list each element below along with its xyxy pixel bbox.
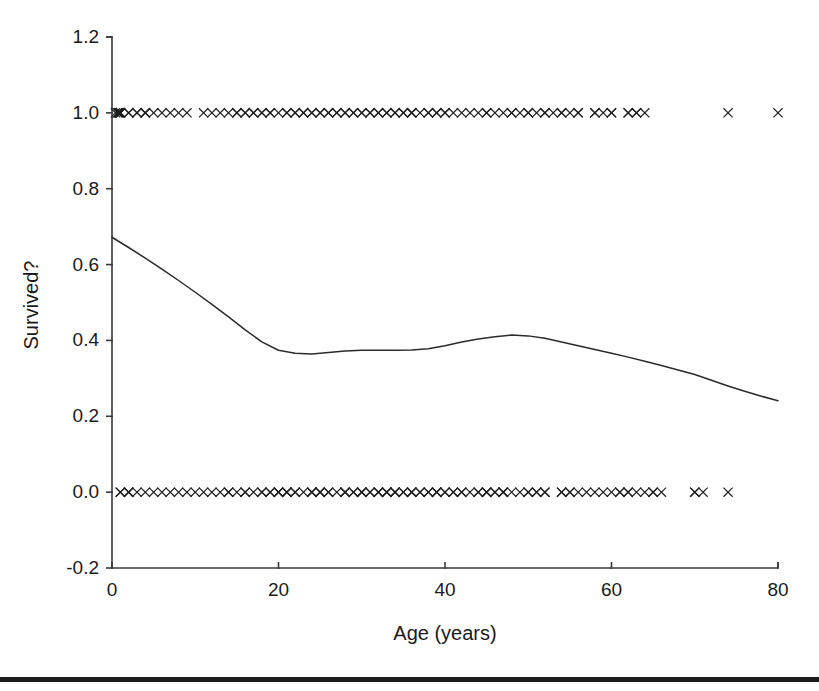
data-point-marker — [524, 108, 533, 117]
data-point-marker — [282, 108, 291, 117]
data-point-marker — [465, 488, 474, 497]
data-point-marker — [624, 488, 633, 497]
data-point-marker — [216, 108, 225, 117]
data-point-marker — [507, 488, 516, 497]
data-point-marker — [549, 108, 558, 117]
data-point-marker — [374, 488, 383, 497]
data-point-marker — [565, 108, 574, 117]
figure-canvas: -0.20.00.20.40.60.81.01.2 020406080 Age … — [0, 0, 819, 691]
data-point-marker — [449, 108, 458, 117]
data-point-marker — [166, 108, 175, 117]
data-point-marker — [341, 108, 350, 117]
data-point-marker — [540, 108, 549, 117]
data-point-marker — [482, 488, 491, 497]
data-point-marker — [241, 108, 250, 117]
data-point-marker — [341, 488, 350, 497]
data-point-marker — [532, 108, 541, 117]
data-point-marker — [365, 108, 374, 117]
data-point-marker — [415, 488, 424, 497]
y-tick-label: 0.0 — [73, 481, 99, 502]
data-point-marker — [224, 108, 233, 117]
data-point-marker — [599, 108, 608, 117]
data-point-marker — [157, 488, 166, 497]
data-point-marker — [299, 488, 308, 497]
data-point-marker — [207, 488, 216, 497]
data-point-marker — [723, 108, 732, 117]
data-point-marker — [640, 488, 649, 497]
data-point-marker — [499, 488, 508, 497]
data-point-marker — [216, 488, 225, 497]
y-tick-label: 1.2 — [73, 26, 99, 47]
data-point-marker — [557, 488, 566, 497]
data-point-marker — [299, 108, 308, 117]
data-point-marker — [382, 108, 391, 117]
data-point-marker — [182, 488, 191, 497]
data-point-marker — [357, 488, 366, 497]
data-point-marker — [166, 488, 175, 497]
data-point-marker — [632, 108, 641, 117]
data-point-marker — [199, 488, 208, 497]
data-point-marker — [557, 108, 566, 117]
x-tick-label: 80 — [767, 579, 788, 600]
data-point-marker — [540, 488, 549, 497]
data-point-marker — [399, 108, 408, 117]
data-point-marker — [116, 488, 125, 497]
axis-spines — [112, 37, 778, 568]
data-point-marker — [607, 488, 616, 497]
data-point-marker — [607, 108, 616, 117]
y-tick-label: 0.6 — [73, 254, 99, 275]
y-axis-title: Survived? — [20, 261, 42, 350]
data-point-marker — [141, 108, 150, 117]
data-point-marker — [324, 108, 333, 117]
data-point-marker — [582, 488, 591, 497]
data-point-marker — [690, 488, 699, 497]
data-point-marker — [390, 108, 399, 117]
bottom-divider-rule — [0, 677, 819, 682]
data-point-marker — [141, 488, 150, 497]
data-point-marker — [249, 108, 258, 117]
data-point-marker — [124, 488, 133, 497]
data-point-marker — [266, 108, 275, 117]
data-point-marker — [365, 488, 374, 497]
data-point-marker — [257, 488, 266, 497]
data-point-marker — [191, 488, 200, 497]
data-point-marker — [424, 488, 433, 497]
data-point-marker — [457, 108, 466, 117]
data-point-marker — [316, 108, 325, 117]
data-point-marker — [590, 488, 599, 497]
x-axis-tick-labels: 020406080 — [107, 579, 789, 600]
data-point-marker — [349, 488, 358, 497]
survived-one-markers — [111, 108, 783, 117]
data-point-marker — [482, 108, 491, 117]
data-point-marker — [624, 108, 633, 117]
data-point-marker — [149, 108, 158, 117]
data-point-marker — [132, 488, 141, 497]
data-point-marker — [574, 108, 583, 117]
y-tick-label: 0.4 — [73, 329, 100, 350]
data-point-marker — [565, 488, 574, 497]
data-point-marker — [182, 108, 191, 117]
scatter-plot: -0.20.00.20.40.60.81.01.2 020406080 Age … — [0, 0, 819, 691]
data-point-marker — [490, 488, 499, 497]
data-point-marker — [157, 108, 166, 117]
data-point-marker — [266, 488, 275, 497]
data-point-marker — [382, 488, 391, 497]
data-point-marker — [499, 108, 508, 117]
data-point-marker — [207, 108, 216, 117]
data-point-marker — [241, 488, 250, 497]
y-tick-label: -0.2 — [66, 557, 99, 578]
data-point-marker — [649, 488, 658, 497]
data-point-marker — [390, 488, 399, 497]
data-point-marker — [465, 108, 474, 117]
data-point-marker — [457, 488, 466, 497]
data-point-marker — [291, 108, 300, 117]
x-tick-label: 60 — [601, 579, 622, 600]
data-point-marker — [174, 488, 183, 497]
x-axis-title: Age (years) — [393, 622, 496, 644]
data-point-marker — [432, 488, 441, 497]
data-point-marker — [415, 108, 424, 117]
data-point-marker — [357, 108, 366, 117]
data-point-marker — [599, 488, 608, 497]
data-point-marker — [324, 488, 333, 497]
data-point-marker — [274, 108, 283, 117]
